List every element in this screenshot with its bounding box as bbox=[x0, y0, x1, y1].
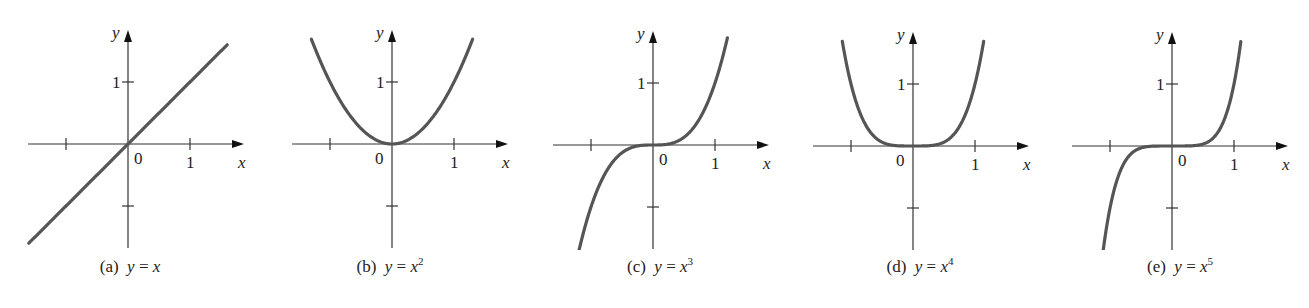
caption-lhs: y bbox=[654, 257, 662, 276]
graph-plot: 110xy bbox=[1050, 0, 1309, 250]
x-axis-arrow-icon bbox=[232, 140, 244, 148]
graph-plot: 110xy bbox=[260, 0, 520, 250]
origin-label: 0 bbox=[134, 149, 143, 168]
caption-lhs: y bbox=[127, 257, 135, 276]
caption-rhs: x bbox=[680, 257, 688, 276]
graph-panel-d: 110xy (d) y = x4 bbox=[790, 0, 1050, 308]
y-tick-label: 1 bbox=[112, 73, 121, 92]
caption-label: (c) bbox=[627, 257, 646, 276]
x-axis-label: x bbox=[1281, 155, 1290, 174]
y-axis-arrow-icon bbox=[388, 30, 396, 42]
x-tick-label: 1 bbox=[186, 153, 195, 172]
graph-caption: (b) y = x2 bbox=[260, 255, 520, 277]
caption-label: (e) bbox=[1147, 257, 1166, 276]
y-axis-label: y bbox=[374, 23, 384, 42]
y-tick-label: 1 bbox=[1156, 75, 1165, 94]
x-tick-label: 1 bbox=[450, 153, 459, 172]
origin-label: 0 bbox=[659, 150, 668, 169]
origin-label: 0 bbox=[375, 149, 384, 168]
caption-label: (a) bbox=[100, 257, 119, 276]
x-axis-label: x bbox=[1022, 155, 1031, 174]
y-tick-label: 1 bbox=[637, 74, 646, 93]
origin-label: 0 bbox=[1178, 151, 1187, 170]
caption-rhs: x bbox=[1200, 257, 1208, 276]
y-axis-arrow-icon bbox=[1168, 32, 1176, 44]
caption-eq: = bbox=[135, 257, 153, 276]
graph-panel-c: 110xy (c) y = x3 bbox=[530, 0, 790, 308]
caption-eq: = bbox=[922, 257, 940, 276]
caption-power: 5 bbox=[1208, 255, 1214, 267]
x-tick-label: 1 bbox=[1230, 155, 1239, 174]
y-tick-label: 1 bbox=[376, 73, 385, 92]
y-axis-arrow-icon bbox=[909, 32, 917, 44]
x-axis-arrow-icon bbox=[496, 140, 508, 148]
caption-power: 2 bbox=[418, 255, 424, 267]
x-axis-label: x bbox=[501, 153, 510, 172]
caption-label: (b) bbox=[356, 257, 376, 276]
x-axis-arrow-icon bbox=[757, 141, 769, 149]
graph-caption: (d) y = x4 bbox=[790, 255, 1050, 277]
graph-plot: 110xy bbox=[790, 0, 1050, 250]
caption-eq: = bbox=[1182, 257, 1200, 276]
y-axis-label: y bbox=[635, 24, 645, 43]
caption-rhs: x bbox=[410, 257, 418, 276]
caption-eq: = bbox=[662, 257, 680, 276]
x-axis-label: x bbox=[237, 153, 246, 172]
caption-label: (d) bbox=[886, 257, 906, 276]
y-axis-arrow-icon bbox=[649, 31, 657, 43]
graph-caption: (c) y = x3 bbox=[530, 255, 790, 277]
caption-power: 3 bbox=[688, 255, 694, 267]
y-tick-label: 1 bbox=[897, 75, 906, 94]
y-axis-arrow-icon bbox=[124, 30, 132, 42]
origin-label: 0 bbox=[896, 151, 905, 170]
y-axis-label: y bbox=[1154, 25, 1164, 44]
caption-power: 4 bbox=[948, 255, 954, 267]
graph-plot: 110xy bbox=[530, 0, 790, 250]
x-axis-arrow-icon bbox=[1017, 142, 1029, 150]
x-axis-label: x bbox=[762, 154, 771, 173]
y-axis-label: y bbox=[895, 25, 905, 44]
x-tick-label: 1 bbox=[971, 155, 980, 174]
x-axis-arrow-icon bbox=[1276, 142, 1288, 150]
caption-eq: = bbox=[392, 257, 410, 276]
graph-caption: (e) y = x5 bbox=[1050, 255, 1309, 277]
caption-lhs: y bbox=[1174, 257, 1182, 276]
caption-rhs: x bbox=[153, 257, 161, 276]
graph-panel-e: 110xy (e) y = x5 bbox=[1050, 0, 1309, 308]
graph-plot: 110xy bbox=[0, 0, 260, 250]
graph-panel-a: 110xy (a) y = x bbox=[0, 0, 260, 308]
y-axis-label: y bbox=[110, 23, 120, 42]
graph-caption: (a) y = x bbox=[0, 255, 260, 277]
caption-rhs: x bbox=[940, 257, 948, 276]
x-tick-label: 1 bbox=[711, 154, 720, 173]
graph-panel-b: 110xy (b) y = x2 bbox=[260, 0, 520, 308]
